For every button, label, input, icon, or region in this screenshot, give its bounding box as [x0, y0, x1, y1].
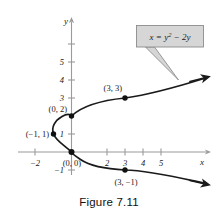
point-label-0-0: (0, 0) — [63, 158, 82, 168]
parabola-plot: −2 2 3 4 5 −1 1 3 4 5 x y (3, 3) (0, 2) … — [0, 0, 218, 217]
equation-tail: − 2y — [171, 32, 190, 42]
point-label--1-1: (−1, 1) — [26, 129, 49, 139]
x-tick-label--2: −2 — [30, 158, 41, 168]
x-tick-label-3: 3 — [122, 158, 127, 168]
y-axis-label: y — [63, 16, 68, 26]
data-point-marker — [69, 149, 75, 155]
equation-base: x = y — [149, 32, 169, 42]
data-point-marker — [69, 113, 74, 118]
x-tick-label-5: 5 — [159, 158, 163, 168]
point-label-3--1: (3, −1) — [114, 177, 137, 187]
x-axis-label: x — [199, 157, 204, 167]
data-point-marker — [51, 131, 56, 136]
figure-container: −2 2 3 4 5 −1 1 3 4 5 x y (3, 3) (0, 2) … — [0, 0, 218, 217]
y-tick-label-1: 1 — [60, 129, 64, 139]
data-point-marker — [122, 95, 127, 100]
data-point-marker — [122, 167, 127, 172]
y-tick-label-4: 4 — [60, 75, 65, 85]
point-label-3-3: (3, 3) — [104, 83, 123, 93]
x-tick-label-4: 4 — [141, 158, 146, 168]
callout-pointer — [146, 47, 179, 80]
y-tick-label-3: 3 — [59, 93, 64, 103]
y-tick-label-5: 5 — [60, 57, 64, 67]
point-label-0-2: (0, 2) — [49, 104, 68, 114]
figure-caption: Figure 7.11 — [0, 196, 218, 208]
x-tick-label-2: 2 — [105, 158, 110, 168]
